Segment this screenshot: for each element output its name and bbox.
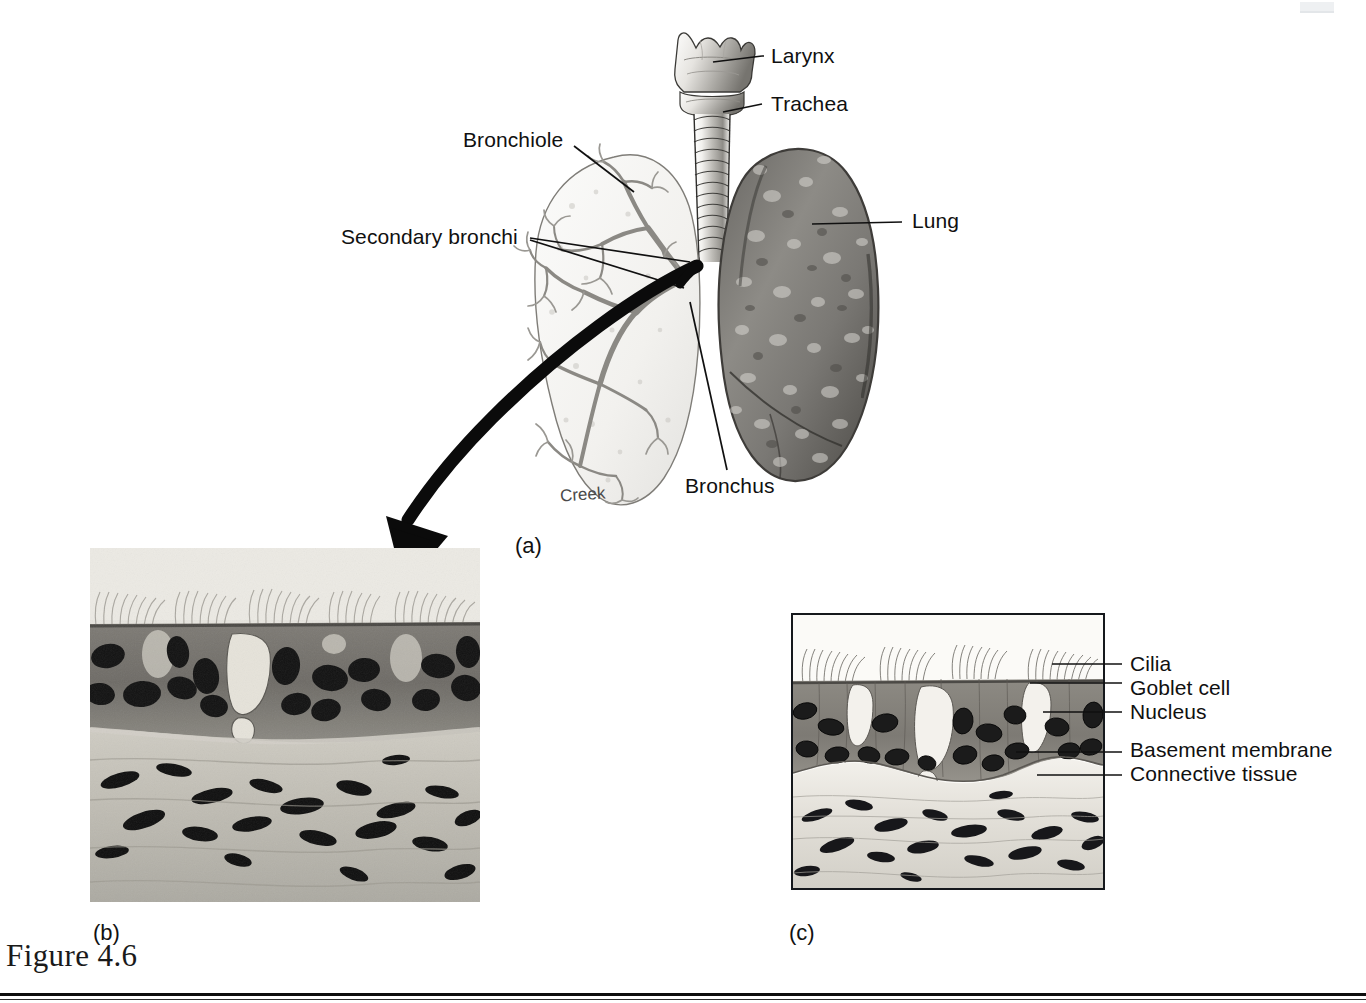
figure-4-6: Larynx Trachea Bronchiole Secondary bron…	[0, 0, 1366, 1003]
label-goblet-cell: Goblet cell	[1130, 676, 1230, 700]
caption-rule-thin	[0, 999, 1366, 1000]
caption-rule	[0, 993, 1366, 996]
label-nucleus: Nucleus	[1130, 700, 1207, 724]
panel-c-leader-lines	[0, 0, 1366, 1003]
label-cilia: Cilia	[1130, 652, 1171, 676]
figure-caption: Figure 4.6	[6, 938, 137, 974]
label-connective-tissue: Connective tissue	[1130, 762, 1297, 786]
panel-c-label: (c)	[789, 920, 815, 946]
label-basement-membrane: Basement membrane	[1130, 738, 1332, 762]
